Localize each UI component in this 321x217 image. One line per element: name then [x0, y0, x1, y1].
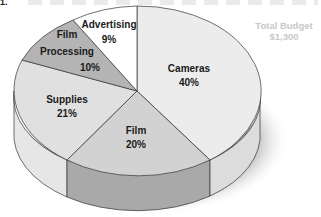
label-cameras: Cameras — [168, 63, 211, 74]
pct-supplies: 21% — [57, 108, 77, 119]
label-advertising: Advertising — [81, 19, 136, 30]
total-budget-label: Total Budget — [246, 20, 321, 31]
pct-advertising: 9% — [102, 34, 117, 45]
pct-cameras: 40% — [179, 77, 199, 88]
label-film: Film — [126, 125, 147, 136]
label-film-processing-2: Processing — [40, 46, 94, 57]
pct-film: 20% — [126, 139, 146, 150]
total-budget-value: $1,300 — [246, 31, 321, 42]
total-budget: Total Budget $1,300 — [246, 20, 321, 42]
label-supplies: Supplies — [46, 94, 88, 105]
label-film-processing-1: Film — [57, 29, 78, 40]
pct-film-processing: 10% — [80, 62, 100, 73]
